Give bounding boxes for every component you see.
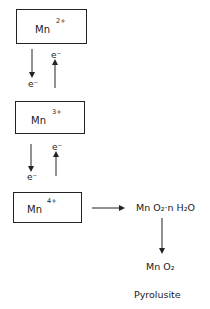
electron-label-up-2: e⁻ — [52, 143, 62, 152]
pyrolusite-label: Pyrolusite — [134, 290, 181, 300]
mn4-element: Mn — [27, 205, 42, 215]
mn4-box: Mn 4+ — [13, 192, 82, 223]
manganese-dioxide: Mn O₂ — [146, 262, 175, 272]
electron-label-down-1: e⁻ — [28, 80, 38, 89]
mn3-box: Mn 3+ — [15, 101, 85, 134]
mn3-element: Mn — [31, 116, 46, 126]
arrows-layer — [0, 0, 210, 309]
electron-label-down-2: e⁻ — [27, 173, 37, 182]
mn2-element: Mn — [35, 25, 50, 35]
electron-label-up-1: e⁻ — [51, 51, 61, 60]
mn2-charge: 2+ — [56, 18, 66, 25]
mn2-box: Mn 2+ — [16, 9, 87, 44]
mn4-charge: 4+ — [47, 198, 57, 205]
hydrated-manganese-dioxide: Mn O₂·n H₂O — [136, 203, 195, 213]
mn3-charge: 3+ — [52, 109, 62, 116]
